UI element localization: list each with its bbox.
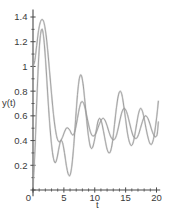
y-tick-label: 0.6	[14, 110, 27, 121]
y-tick-label: 1	[22, 61, 27, 72]
x-tick-label: 20	[151, 192, 162, 203]
origin-label: 0	[26, 192, 31, 203]
x-axis-label: t	[96, 199, 99, 210]
y-tick-label: 0.8	[14, 86, 27, 97]
x-tick-label: 5	[61, 192, 66, 203]
chart-figure: 0.20.40.60.811.21.4 05101520 y(t)t	[0, 0, 171, 222]
y-tick-label: 0.2	[14, 160, 27, 171]
y-axis-label: y(t)	[2, 97, 16, 108]
y-tick-label: 1.4	[14, 11, 27, 22]
y-tick-label: 0.4	[14, 135, 27, 146]
y-tick-label: 1.2	[14, 36, 27, 47]
x-tick-label: 15	[120, 192, 131, 203]
plot-area: 0.20.40.60.811.21.4 05101520 y(t)t	[0, 0, 171, 222]
